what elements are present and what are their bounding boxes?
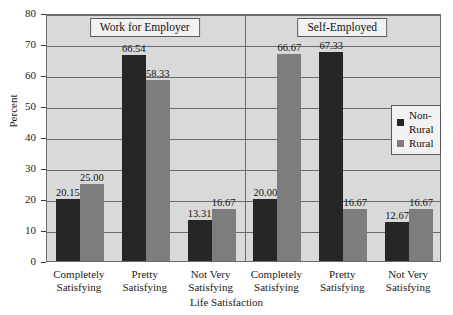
x-tick-label-line2: Satisfying — [188, 281, 233, 294]
x-axis-title: Life Satisfaction — [0, 296, 453, 308]
x-tick-label-line2: Satisfying — [386, 281, 431, 294]
x-tick-label: PrettySatisfying — [320, 268, 365, 293]
bar — [146, 80, 170, 261]
x-tick-label-line1: Completely — [53, 268, 104, 281]
y-tick-label: 50 — [10, 100, 36, 112]
bar-value-label: 12.67 — [385, 210, 409, 221]
bar — [56, 199, 80, 261]
panel-divider — [245, 15, 246, 261]
x-tick-label-line1: Pretty — [320, 268, 365, 281]
legend-swatch-icon — [397, 140, 404, 147]
gridline — [47, 170, 440, 171]
x-tick-label: CompletelySatisfying — [53, 268, 104, 293]
bar-value-label: 20.15 — [56, 187, 80, 198]
bar — [122, 55, 146, 261]
x-tick-label: PrettySatisfying — [122, 268, 167, 293]
bar-value-label: 58.33 — [146, 68, 170, 79]
bar-value-label: 66.54 — [122, 43, 146, 54]
legend: Non-Rural Rural — [391, 105, 441, 155]
bar-value-label: 66.67 — [278, 42, 302, 53]
bar — [277, 54, 301, 261]
gridline — [47, 46, 440, 47]
bar — [343, 209, 367, 261]
bar — [80, 184, 104, 262]
y-tick-mark — [41, 262, 46, 263]
x-tick-label-line1: Completely — [251, 268, 302, 281]
y-tick-label: 20 — [10, 193, 36, 205]
x-tick-label-line1: Not Very — [188, 268, 233, 281]
y-tick-label: 70 — [10, 38, 36, 50]
legend-swatch-icon — [397, 119, 404, 126]
x-tick-label: Not VerySatisfying — [386, 268, 431, 293]
y-tick-label: 40 — [10, 131, 36, 143]
panel-title-self-employed: Self-Employed — [297, 18, 387, 37]
gridline — [47, 201, 440, 202]
x-tick-label-line2: Satisfying — [251, 281, 302, 294]
gridline — [47, 15, 440, 16]
y-tick-label: 60 — [10, 69, 36, 81]
legend-label: Rural — [409, 137, 433, 151]
legend-item-rural: Rural — [397, 137, 433, 151]
x-tick-label: Not VerySatisfying — [188, 268, 233, 293]
gridline — [47, 77, 440, 78]
bar-value-label: 25.00 — [80, 172, 104, 183]
bar — [253, 199, 277, 261]
panel-title-work-for-employer: Work for Employer — [90, 18, 200, 37]
x-tick-label: CompletelySatisfying — [251, 268, 302, 293]
legend-label: Non-Rural — [409, 109, 433, 137]
bar-value-label: 16.67 — [343, 197, 367, 208]
gridline — [47, 108, 440, 109]
gridline — [47, 139, 440, 140]
x-tick-label-line1: Pretty — [122, 268, 167, 281]
x-tick-label-line2: Satisfying — [320, 281, 365, 294]
x-tick-label-line2: Satisfying — [122, 281, 167, 294]
bar — [409, 209, 433, 261]
y-tick-label: 30 — [10, 162, 36, 174]
bar-value-label: 67.33 — [319, 40, 343, 51]
legend-item-non-rural: Non-Rural — [397, 109, 433, 137]
x-tick-label-line1: Not Very — [386, 268, 431, 281]
bar — [188, 220, 212, 261]
bar-chart: Percent 01020304050607080 20.1525.0066.5… — [0, 0, 453, 315]
y-tick-label: 0 — [10, 255, 36, 267]
bar-value-label: 13.31 — [188, 208, 212, 219]
y-tick-label: 80 — [10, 7, 36, 19]
bar-value-label: 20.00 — [254, 187, 278, 198]
bar-value-label: 16.67 — [212, 197, 236, 208]
bar — [385, 222, 409, 261]
gridline — [47, 232, 440, 233]
bar — [319, 52, 343, 261]
y-tick-label: 10 — [10, 224, 36, 236]
bar-value-label: 16.67 — [409, 197, 433, 208]
plot-area: 20.1525.0066.5458.3313.3116.6720.0066.67… — [46, 14, 441, 262]
bar — [212, 209, 236, 261]
x-tick-label-line2: Satisfying — [53, 281, 104, 294]
